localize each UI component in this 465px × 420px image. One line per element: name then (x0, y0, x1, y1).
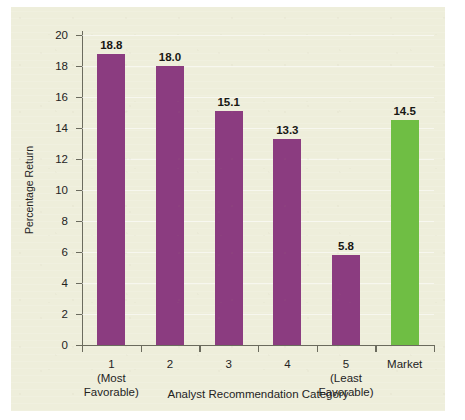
bar-value-label: 5.8 (338, 240, 354, 252)
x-axis-category-label: 5(LeastFavorable) (319, 357, 374, 399)
x-axis-tick (82, 345, 83, 352)
gridline (82, 314, 434, 315)
bar-value-label: 15.1 (217, 96, 239, 108)
bar-value-label: 14.5 (393, 105, 415, 117)
gridline (82, 97, 434, 98)
x-axis-category-label: 2 (167, 357, 173, 371)
bar-value-label: 18.0 (159, 51, 181, 63)
y-axis-tick-label: 0 (62, 339, 68, 351)
x-axis-tick (199, 345, 200, 352)
y-axis-tick-label: 20 (55, 29, 68, 41)
y-axis-tick: 4 (76, 283, 82, 284)
gridline (82, 128, 434, 129)
y-axis-tick: 20 (76, 35, 82, 36)
y-axis-tick-label: 2 (62, 308, 68, 320)
y-axis-tick: 8 (76, 221, 82, 222)
gridline (82, 35, 434, 36)
y-axis-tick: 2 (76, 314, 82, 315)
y-axis-tick-label: 6 (62, 246, 68, 258)
bar[interactable]: 15.1 (215, 111, 243, 345)
x-axis-category-label: Market (387, 357, 422, 371)
bar[interactable]: 14.5 (391, 120, 419, 345)
chart-screenshot: Percentage Return Analyst Recommendation… (0, 0, 465, 420)
x-axis-category-name: 3 (225, 358, 231, 370)
y-axis-tick-label: 12 (55, 153, 68, 165)
bar[interactable]: 18.0 (156, 66, 184, 345)
y-axis-tick-label: 14 (55, 122, 68, 134)
x-axis-category-name: 2 (167, 358, 173, 370)
gridline (82, 159, 434, 160)
y-axis-title: Percentage Return (23, 146, 35, 234)
y-axis-tick: 6 (76, 252, 82, 253)
x-axis-tick (258, 345, 259, 352)
y-axis-tick: 10 (76, 190, 82, 191)
x-axis-category-name: 4 (284, 358, 290, 370)
y-axis-tick-label: 16 (55, 91, 68, 103)
gridline (82, 283, 434, 284)
y-axis-tick-label: 18 (55, 60, 68, 72)
gridline (82, 66, 434, 67)
x-axis-category-sublabel: (Least (319, 371, 374, 385)
gridline (82, 190, 434, 191)
gridline (82, 252, 434, 253)
x-axis-tick (375, 345, 376, 352)
y-axis-tick: 12 (76, 159, 82, 160)
x-axis-category-name: 1 (108, 358, 114, 370)
gridline (82, 221, 434, 222)
x-axis-category-sublabel: Favorable) (319, 385, 374, 399)
plot-area: 02468101214161820 18.818.015.113.35.814.… (82, 35, 434, 345)
x-axis-category-label: 3 (225, 357, 231, 371)
y-axis-tick-label: 10 (55, 184, 68, 196)
y-axis-tick: 16 (76, 97, 82, 98)
y-axis-tick-label: 4 (62, 277, 68, 289)
x-axis-category-label: 1(MostFavorable) (84, 357, 139, 399)
x-axis-category-label: 4 (284, 357, 290, 371)
y-axis-tick-label: 8 (62, 215, 68, 227)
bar[interactable]: 18.8 (97, 54, 125, 345)
bar-value-label: 18.8 (100, 39, 122, 51)
x-axis-category-name: 5 (343, 358, 349, 370)
x-axis-tick (317, 345, 318, 352)
y-axis-tick: 14 (76, 128, 82, 129)
bar-value-label: 13.3 (276, 124, 298, 136)
x-axis-category-name: Market (387, 358, 422, 370)
x-axis-tick (141, 345, 142, 352)
y-axis-line (82, 31, 83, 345)
x-axis-tick (434, 345, 435, 352)
x-axis-category-sublabel: Favorable) (84, 385, 139, 399)
y-axis-tick: 18 (76, 66, 82, 67)
x-axis-category-sublabel: (Most (84, 371, 139, 385)
bar[interactable]: 5.8 (332, 255, 360, 345)
chart-panel: Percentage Return Analyst Recommendation… (11, 7, 445, 411)
bar[interactable]: 13.3 (273, 139, 301, 345)
